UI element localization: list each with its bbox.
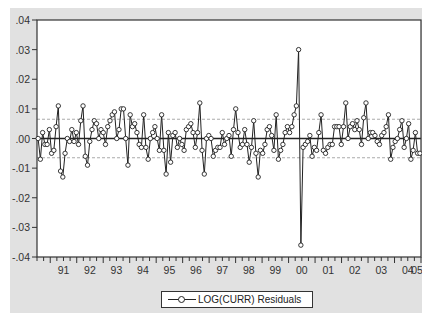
data-point-marker	[362, 116, 366, 120]
data-point-marker	[290, 124, 294, 128]
data-point-marker	[249, 145, 253, 149]
data-point-marker	[175, 145, 179, 149]
data-point-marker	[182, 148, 186, 152]
y-tick-label: -.02	[12, 192, 30, 204]
data-point-marker	[337, 124, 341, 128]
data-point-marker	[97, 136, 101, 140]
data-point-marker	[243, 127, 247, 131]
data-point-marker	[388, 157, 392, 161]
data-point-marker	[269, 133, 273, 137]
data-point-marker	[40, 130, 44, 134]
y-tick-label: .03	[15, 44, 30, 56]
data-point-marker	[227, 133, 231, 137]
data-point-marker	[166, 130, 170, 134]
data-point-marker	[292, 113, 296, 117]
data-point-marker	[222, 142, 226, 146]
data-point-marker	[132, 121, 136, 125]
data-point-marker	[272, 148, 276, 152]
data-point-marker	[67, 139, 71, 143]
data-point-marker	[164, 172, 168, 176]
data-point-marker	[218, 145, 222, 149]
data-point-marker	[189, 121, 193, 125]
data-point-marker	[377, 142, 381, 146]
data-point-marker	[319, 113, 323, 117]
data-point-marker	[330, 142, 334, 146]
data-point-marker	[294, 104, 298, 108]
y-tick-label: .02	[15, 73, 30, 85]
data-point-marker	[200, 148, 204, 152]
data-point-marker	[350, 121, 354, 125]
data-point-marker	[128, 113, 132, 117]
data-point-marker	[108, 119, 112, 123]
y-tick-label: -.04	[12, 251, 30, 263]
y-tick-label: .04	[15, 14, 30, 26]
legend-label: LOG(CURR) Residuals	[198, 294, 301, 305]
data-point-marker	[121, 107, 125, 111]
data-point-marker	[355, 119, 359, 123]
data-point-marker	[276, 157, 280, 161]
data-point-marker	[195, 130, 199, 134]
data-point-marker	[323, 151, 327, 155]
x-tick-label: 00	[296, 264, 308, 276]
data-point-marker	[198, 101, 202, 105]
data-point-marker	[157, 148, 161, 152]
data-point-marker	[281, 142, 285, 146]
data-point-marker	[83, 154, 87, 158]
data-point-marker	[256, 175, 260, 179]
data-point-marker	[52, 148, 56, 152]
data-point-marker	[45, 142, 49, 146]
data-point-marker	[413, 130, 417, 134]
data-point-marker	[117, 127, 121, 131]
data-point-marker	[278, 148, 282, 152]
data-point-marker	[308, 133, 312, 137]
data-point-marker	[418, 151, 422, 155]
data-point-marker	[36, 136, 40, 140]
data-point-marker	[366, 136, 370, 140]
data-point-marker	[193, 145, 197, 149]
data-point-marker	[357, 127, 361, 131]
data-point-marker	[409, 157, 413, 161]
data-point-marker	[126, 163, 130, 167]
data-point-marker	[202, 172, 206, 176]
data-point-marker	[101, 130, 105, 134]
chart-legend: LOG(CURR) Residuals	[161, 291, 313, 308]
x-tick-label: 01	[322, 264, 334, 276]
data-point-marker	[359, 142, 363, 146]
data-point-marker	[38, 157, 42, 161]
data-point-marker	[180, 142, 184, 146]
data-point-marker	[317, 130, 321, 134]
data-point-marker	[61, 175, 65, 179]
data-point-marker	[245, 142, 249, 146]
y-tick-label: -.01	[12, 162, 30, 174]
data-point-marker	[364, 101, 368, 105]
data-point-marker	[382, 130, 386, 134]
data-point-marker	[305, 139, 309, 143]
data-point-marker	[411, 148, 415, 152]
x-tick-label: 99	[270, 264, 282, 276]
x-tick-label: 96	[190, 264, 202, 276]
data-point-marker	[341, 124, 345, 128]
data-point-marker	[153, 124, 157, 128]
data-point-marker	[94, 121, 98, 125]
x-tick-label: 92	[84, 264, 96, 276]
data-point-marker	[103, 142, 107, 146]
x-tick-label: 97	[217, 264, 229, 276]
data-point-marker	[339, 142, 343, 146]
data-point-marker	[314, 148, 318, 152]
data-point-marker	[283, 130, 287, 134]
data-point-marker	[236, 130, 240, 134]
data-point-marker	[267, 124, 271, 128]
data-point-marker	[397, 127, 401, 131]
data-point-marker	[90, 127, 94, 131]
data-point-marker	[310, 154, 314, 158]
y-tick-label: -.03	[12, 221, 30, 233]
data-point-marker	[344, 101, 348, 105]
data-point-marker	[168, 160, 172, 164]
data-point-marker	[247, 160, 251, 164]
data-point-marker	[81, 104, 85, 108]
y-tick-label: .00	[15, 133, 30, 145]
data-point-marker	[191, 130, 195, 134]
data-point-marker	[74, 130, 78, 134]
data-point-marker	[395, 136, 399, 140]
data-point-marker	[85, 163, 89, 167]
